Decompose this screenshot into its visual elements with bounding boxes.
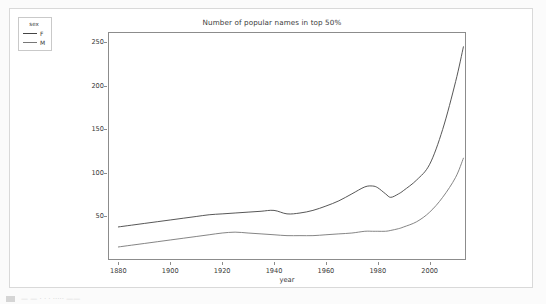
- x-tick-label-6: 2000: [415, 267, 445, 275]
- legend-label-m: M: [40, 38, 45, 47]
- legend-title: sex: [23, 21, 45, 27]
- legend-item-f[interactable]: F: [23, 29, 45, 38]
- y-tick-mark-0: [104, 216, 107, 217]
- x-tick-label-0: 1880: [103, 267, 133, 275]
- legend-item-m[interactable]: M: [23, 38, 45, 47]
- y-tick-mark-1: [104, 173, 107, 174]
- x-tick-mark-2: [222, 262, 223, 265]
- bottom-square-icon: [6, 296, 15, 302]
- y-tick-mark-2: [104, 129, 107, 130]
- x-tick-mark-5: [378, 262, 379, 265]
- x-tick-label-5: 1980: [363, 267, 393, 275]
- y-tick-label-0: 50: [78, 212, 104, 220]
- y-tick-label-1: 100: [78, 169, 104, 177]
- series-line-f: [118, 47, 463, 227]
- x-tick-label-4: 1960: [311, 267, 341, 275]
- screenshot-root: Number of popular names in top 50% 50100…: [0, 0, 546, 304]
- y-tick-label-2: 150: [78, 125, 104, 133]
- y-tick-mark-4: [104, 42, 107, 43]
- chart-card: Number of popular names in top 50% 50100…: [9, 8, 533, 288]
- y-tick-mark-3: [104, 86, 107, 87]
- y-tick-label-4: 250: [78, 38, 104, 46]
- chart-title: Number of popular names in top 50%: [10, 18, 534, 27]
- bottom-cutoff-text: — — · · · ····· ——: [21, 295, 80, 303]
- y-tick-label-3: 200: [78, 82, 104, 90]
- legend-line-swatch-m: [23, 42, 37, 43]
- x-tick-label-3: 1940: [259, 267, 289, 275]
- bottom-cutoff-strip: — — · · · ····· ——: [0, 294, 546, 304]
- x-tick-mark-3: [274, 262, 275, 265]
- x-tick-mark-6: [430, 262, 431, 265]
- matplotlib-figure: Number of popular names in top 50% 50100…: [10, 9, 534, 289]
- x-tick-label-1: 1900: [155, 267, 185, 275]
- legend-line-swatch-f: [23, 33, 37, 34]
- legend[interactable]: sex F M: [18, 17, 52, 51]
- legend-label-f: F: [40, 29, 43, 38]
- x-tick-label-2: 1920: [207, 267, 237, 275]
- x-tick-mark-4: [326, 262, 327, 265]
- plot-lines: [108, 32, 466, 260]
- x-tick-mark-1: [170, 262, 171, 265]
- y-axis-ticks: 50100150200250: [72, 32, 104, 260]
- x-tick-mark-0: [118, 262, 119, 265]
- x-axis-title: year: [108, 276, 466, 284]
- series-line-m: [118, 158, 463, 247]
- bottom-cutoff-content: — — · · · ····· ——: [0, 294, 546, 304]
